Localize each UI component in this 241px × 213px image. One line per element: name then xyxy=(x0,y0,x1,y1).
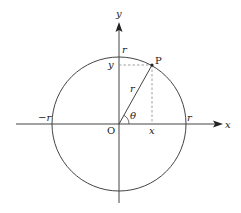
point-label: P xyxy=(155,55,162,66)
angle-label: θ xyxy=(130,110,136,121)
angle-arc xyxy=(124,115,129,124)
x-axis-label: x xyxy=(225,119,231,130)
y-axis-label: y xyxy=(115,8,122,19)
x-projection-label: x xyxy=(149,125,155,136)
y-projection-label: y xyxy=(107,59,114,70)
r-top-label: r xyxy=(122,44,128,55)
polar-diagram: y x O P r θ r r −r x y xyxy=(0,0,241,213)
radius-label: r xyxy=(130,83,136,94)
r-right-label: r xyxy=(187,112,193,123)
origin-label: O xyxy=(107,125,115,136)
r-left-label: −r xyxy=(38,112,52,123)
point-p-dot xyxy=(150,63,153,66)
